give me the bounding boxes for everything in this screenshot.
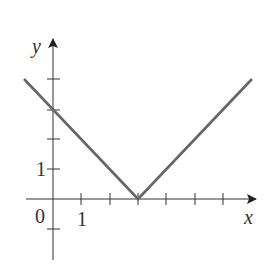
x-axis-label: x (243, 206, 253, 228)
y-tick-label-1: 1 (36, 158, 46, 180)
origin-label: 0 (35, 205, 45, 227)
y-axis-label: y (30, 35, 41, 58)
absolute-value-graph: y x 0 1 1 (0, 0, 273, 267)
x-tick-label-1: 1 (77, 208, 87, 230)
